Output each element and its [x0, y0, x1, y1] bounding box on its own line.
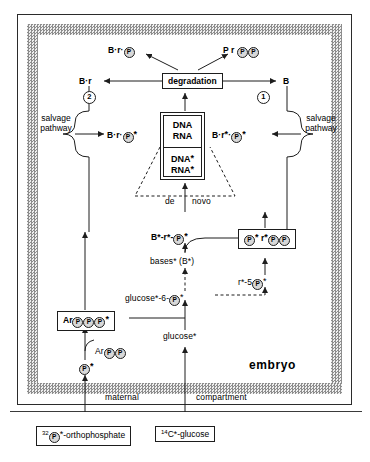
node-glucose6p-star: glucose*-6-P* — [125, 292, 184, 306]
de-label: de — [165, 196, 175, 206]
maternal-label: maternal — [105, 392, 139, 402]
figure-canvas: degradation DNA RNA DNA* RNA* P P* r*PP … — [0, 0, 370, 462]
node-glucose-star: glucose* — [163, 331, 196, 341]
nucleic-acid-box[interactable]: DNA RNA DNA* RNA* — [160, 112, 205, 180]
dna-label: DNA — [161, 120, 204, 130]
degradation-box[interactable]: degradation — [162, 73, 223, 89]
rna-star-label: RNA* — [161, 164, 204, 175]
node-brp-top-left: B·r·P — [108, 45, 135, 58]
node-bstar-rstar-pstar: B*-r*-P* — [151, 231, 188, 245]
input-phosphate-box[interactable]: 32P*-orthophosphate — [36, 426, 131, 446]
embryo-label: embryo — [249, 358, 296, 372]
salvage-pathway-left: salvage pathway — [32, 113, 80, 133]
prpp-star-box[interactable]: P P* r*PP — [238, 229, 296, 249]
nucleic-divider — [163, 147, 202, 148]
degradation-label: degradation — [168, 76, 217, 86]
atp-prefix: Ar — [63, 315, 72, 325]
node-brp-star-right: B·r*·P* — [212, 129, 246, 143]
node-arpp: ArPP — [95, 346, 126, 359]
phosphate-circle: P — [279, 235, 290, 246]
node-r5p-star: r*-5P* — [238, 276, 267, 290]
node-bases-star: bases* (B*) — [150, 256, 194, 266]
node-phosphate-star: P* — [79, 361, 94, 375]
node-b-right: B — [283, 76, 289, 86]
node-br-left: B·r — [79, 76, 92, 86]
pathway-number-one: 1 — [257, 90, 270, 104]
dna-star-label: DNA* — [161, 153, 204, 164]
pathway-number-two: 2 — [83, 90, 96, 104]
node-brp-star-left: B·r·P* — [107, 129, 137, 143]
novo-label: novo — [192, 196, 211, 206]
rna-label: RNA — [161, 131, 204, 141]
orthophosphate-label: -orthophosphate — [63, 430, 125, 440]
node-prpp-top-right: P r PP — [223, 45, 259, 58]
input-glucose-box[interactable]: 14C*-glucose — [155, 426, 215, 442]
atp-star-box[interactable]: ArPPP* — [57, 311, 115, 331]
isotope-32: 32 — [42, 430, 49, 436]
isotope-14: 14 — [161, 429, 168, 435]
glucose-input-label: C*-glucose — [168, 429, 210, 439]
salvage-pathway-right: salvage pathway — [295, 113, 347, 133]
phosphate-circle: P — [244, 235, 255, 246]
compartment-label: compartment — [196, 392, 247, 402]
phosphate-circle: P — [268, 235, 279, 246]
